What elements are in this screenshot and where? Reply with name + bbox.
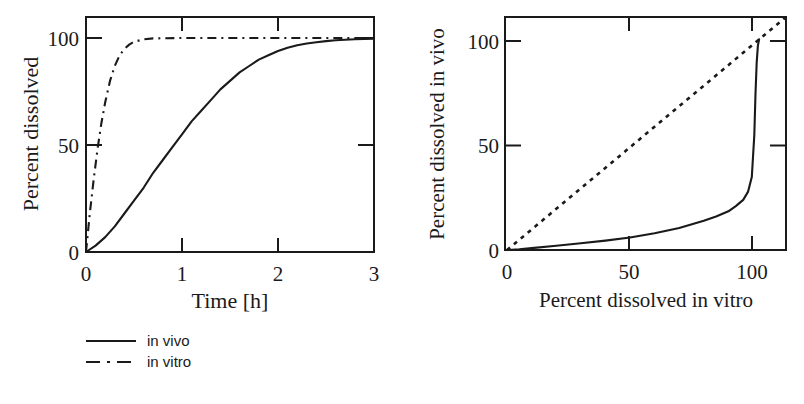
y-axis-ticks	[505, 41, 521, 146]
x-axis-ticks	[182, 238, 278, 252]
x-tick-label-1: 1	[177, 262, 188, 286]
series-ideal-case	[507, 17, 786, 250]
x-axis-ticks	[629, 236, 752, 250]
correlation-plot-svg: Percent dissolved in vivo 100 50 0 0 50 …	[402, 0, 804, 320]
x-tick-label-0: 0	[81, 262, 92, 286]
chart-panel-dissolution: Percent dissolved 100 50 0 0 1 2 3 Time …	[0, 0, 402, 404]
series-in-vitro	[86, 38, 374, 252]
x-tick-label-2: 2	[273, 262, 284, 286]
y-tick-label-50: 50	[478, 134, 499, 158]
dissolution-plot-svg: Percent dissolved 100 50 0 0 1 2 3 Time …	[0, 0, 402, 320]
legend-label-in-vivo: in vivo	[147, 330, 190, 351]
x-axis-ticks-top	[182, 17, 278, 31]
y-axis-label-right: Percent dissolved in vivo	[425, 28, 449, 240]
legend-swatch-solid-icon	[85, 335, 137, 347]
y-axis-ticks-right	[358, 38, 374, 145]
x-tick-label-3: 3	[369, 262, 380, 286]
legend-dissolution: in vivo in vitro	[85, 330, 191, 372]
y-axis-ticks-right	[770, 41, 786, 146]
plot-frame	[86, 17, 374, 252]
x-axis-ticks-top	[629, 17, 752, 31]
y-tick-label-100: 100	[48, 27, 80, 51]
y-tick-label-0: 0	[69, 241, 80, 265]
x-tick-label-100: 100	[736, 260, 768, 284]
y-axis-ticks	[86, 38, 102, 145]
x-tick-label-50: 50	[619, 260, 640, 284]
series-in-vivo	[86, 39, 374, 252]
y-tick-label-50: 50	[58, 134, 79, 158]
y-tick-label-100: 100	[468, 30, 500, 54]
y-axis-label-left: Percent dissolved	[18, 57, 43, 212]
legend-item-in-vitro: in vitro	[85, 351, 191, 372]
legend-label-in-vitro: in vitro	[147, 351, 191, 372]
x-axis-label-right: Percent dissolved in vitro	[539, 288, 753, 312]
chart-panel-correlation: Percent dissolved in vivo 100 50 0 0 50 …	[402, 0, 804, 404]
figure-ivivc: Percent dissolved 100 50 0 0 1 2 3 Time …	[0, 0, 804, 404]
x-tick-label-0: 0	[502, 260, 513, 284]
y-tick-label-0: 0	[489, 239, 500, 263]
legend-item-in-vivo: in vivo	[85, 330, 191, 351]
x-axis-label-left: Time [h]	[192, 288, 269, 313]
legend-swatch-dashdot-icon	[85, 356, 137, 368]
